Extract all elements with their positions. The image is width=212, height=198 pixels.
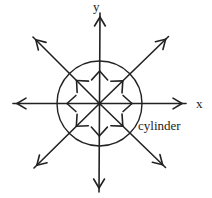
arrow-left-head-barb-1 [17,104,26,109]
inner-arrow-left-head-barb-1 [67,104,76,112]
cylinder-label: cylinder [138,118,181,133]
inner-arrow-right-head-barb-2 [123,104,132,112]
arrow-up-shaft [100,13,101,104]
inner-arrow-up-head-barb-2 [100,71,108,80]
inner-arrow-down-head-barb-2 [91,127,99,136]
inner-arrow-down-right-head-barb-1 [122,114,123,126]
arrow-right-head-barb-2 [173,104,182,109]
inner-arrow-right-head-barb-1 [123,95,132,103]
arrow-down-head-barb-2 [94,179,99,188]
arrow-up-head-barb-2 [100,17,105,26]
inner-arrow-up-head-barb-1 [92,71,100,80]
y-axis-label: y [93,0,100,14]
inner-arrow-down-left-head-barb-2 [76,114,77,126]
inner-arrow-up-right-head-barb-2 [122,81,123,93]
arrow-up-right-shaft [100,37,169,104]
diagram-canvas: y x cylinder [0,0,212,198]
inner-arrow-down-head-barb-1 [99,127,107,136]
inner-arrow-down-left-head-barb-1 [76,126,88,127]
arrow-down-shaft [99,104,100,193]
arrow-up-left-shaft [33,37,100,104]
x-axis-label: x [196,96,203,111]
inner-arrow-up-left-head-barb-1 [77,81,78,93]
inner-arrow-left-head-barb-2 [67,95,76,103]
inner-arrow-up-left-head-barb-2 [77,81,89,82]
origin-dot [97,101,101,105]
arrow-left-head-barb-2 [17,98,26,103]
geometry-layer [13,13,186,192]
arrow-right-head-barb-1 [173,98,182,103]
arrow-down-left-shaft [34,104,100,169]
arrow-down-right-shaft [100,104,166,168]
radial-flow-diagram: y x cylinder [0,0,212,198]
